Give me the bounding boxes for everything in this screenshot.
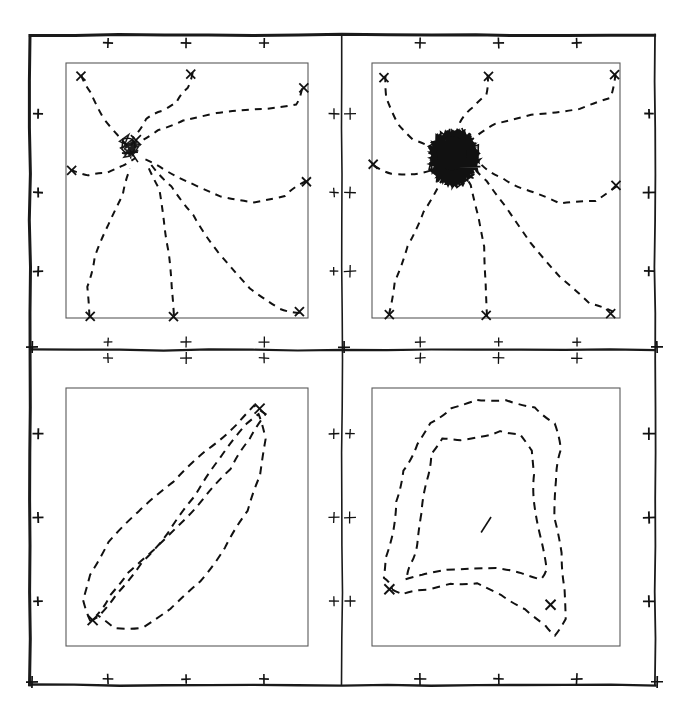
axis-corner-tick [26, 676, 38, 688]
axis-tick-horizontal-edge [493, 352, 505, 364]
trajectory-path [81, 75, 128, 146]
axis-tick-vertical-edge [344, 108, 356, 120]
trajectory-path [384, 400, 566, 636]
multi-panel-trajectory-figure [0, 0, 683, 713]
tick-vertical-stroke [576, 673, 577, 685]
panel-bottom-left [66, 388, 308, 646]
trajectory-path [87, 169, 130, 317]
panel-divider-vertical [342, 34, 343, 684]
axis-tick-horizontal-edge [181, 38, 192, 49]
panel-top-left [66, 63, 311, 321]
axis-tick-horizontal-edge [259, 353, 269, 363]
endpoint-x-marker [76, 72, 85, 81]
tick-vertical-stroke [350, 187, 351, 199]
endpoint-x-marker [67, 166, 76, 175]
panel-divider-horizontal [30, 349, 655, 350]
endpoint-x-marker [546, 600, 556, 610]
axis-tick-vertical-edge [33, 109, 43, 119]
axis-tick-middle-upper [180, 336, 191, 347]
axis-tick-vertical-edge [644, 266, 654, 276]
axis-tick-centre-left [329, 596, 339, 606]
axis-tick-horizontal-edge [493, 674, 504, 685]
axis-tick-horizontal-edge [180, 352, 192, 364]
trajectory-path [148, 166, 174, 316]
trajectory-path [142, 158, 307, 202]
inner-plot-box [372, 388, 620, 646]
axis-tick-horizontal-edge [493, 37, 504, 48]
cluster-core-blob [437, 136, 467, 170]
inner-plot-box [66, 388, 308, 646]
trajectory-path [139, 89, 302, 143]
axis-corner-tick [26, 341, 38, 353]
axis-tick-horizontal-edge [415, 353, 426, 364]
axis-tick-vertical-edge [345, 429, 355, 439]
axis-tick-horizontal-edge [181, 674, 191, 684]
axis-tick-vertical-edge [33, 188, 43, 198]
endpoint-x-marker [255, 404, 265, 414]
axis-tick-middle-upper [494, 338, 503, 347]
axis-tick-vertical-edge [33, 266, 43, 276]
axis-tick-horizontal-edge [572, 38, 582, 48]
axis-tick-middle-upper [259, 337, 270, 348]
axis-tick-centre-left [329, 188, 338, 197]
trajectory-path [472, 74, 616, 140]
endpoint-x-marker [379, 73, 388, 82]
axis-tick-centre-left [329, 428, 340, 439]
axis-tick-vertical-edge [643, 595, 655, 607]
tick-vertical-stroke [350, 429, 351, 439]
tick-vertical-stroke [334, 188, 335, 197]
axis-tick-horizontal-edge [103, 38, 113, 48]
trajectory-path [481, 164, 618, 204]
axis-tick-middle-upper [104, 338, 113, 347]
axis-corner-tick [651, 341, 663, 353]
outer-frame-right [654, 35, 655, 685]
figure-root [0, 0, 683, 713]
trajectory-path [83, 406, 266, 629]
axis-tick-horizontal-edge [571, 673, 583, 685]
axis-tick-vertical-edge [643, 511, 655, 523]
trajectory-path [406, 431, 547, 579]
axis-tick-horizontal-edge [571, 352, 582, 363]
axis-tick-horizontal-edge [415, 37, 426, 48]
axis-tick-horizontal-edge [259, 674, 269, 684]
axis-tick-vertical-edge [32, 428, 43, 439]
endpoint-x-marker [611, 181, 620, 190]
trajectory-path [389, 164, 452, 315]
axis-tick-vertical-edge [33, 512, 44, 523]
outer-frame-left [29, 36, 30, 685]
trajectory-path [464, 171, 487, 316]
tick-vertical-stroke [420, 353, 421, 364]
trajectory-path [70, 158, 135, 176]
axis-tick-horizontal-edge [259, 38, 269, 48]
axis-tick-centre-left [330, 267, 339, 276]
axis-tick-vertical-edge [344, 512, 356, 524]
axis-tick-vertical-edge [33, 596, 43, 606]
trajectory-path [133, 72, 193, 137]
outer-frame-bottom [29, 685, 655, 686]
inner-plot-box [372, 63, 620, 318]
endpoint-x-marker [299, 83, 308, 92]
trajectory-path [150, 163, 300, 313]
axis-tick-horizontal-edge [414, 673, 426, 685]
knot-cross-stroke [122, 152, 138, 153]
inner-plot-box [66, 63, 308, 318]
axis-tick-centre-left [328, 512, 339, 523]
axis-tick-vertical-edge [643, 186, 656, 199]
tick-vertical-stroke [334, 512, 335, 523]
axis-tick-vertical-edge [644, 109, 654, 119]
panel-bottom-right [372, 388, 620, 646]
axis-tick-vertical-edge [344, 265, 357, 278]
panel-top-right [369, 63, 621, 320]
endpoint-x-marker [369, 160, 378, 169]
axis-corner-tick [338, 341, 350, 353]
axis-tick-horizontal-edge [103, 353, 113, 363]
tick-vertical-stroke [108, 338, 109, 347]
axis-tick-vertical-edge [344, 187, 356, 199]
trajectory-path [472, 166, 613, 312]
centre-dash-mark [481, 517, 491, 532]
axis-tick-horizontal-edge [103, 674, 114, 685]
axis-tick-middle-upper [572, 338, 581, 347]
axis-tick-vertical-edge [344, 596, 355, 607]
endpoint-x-marker [295, 307, 304, 316]
trajectory-path [385, 76, 435, 150]
